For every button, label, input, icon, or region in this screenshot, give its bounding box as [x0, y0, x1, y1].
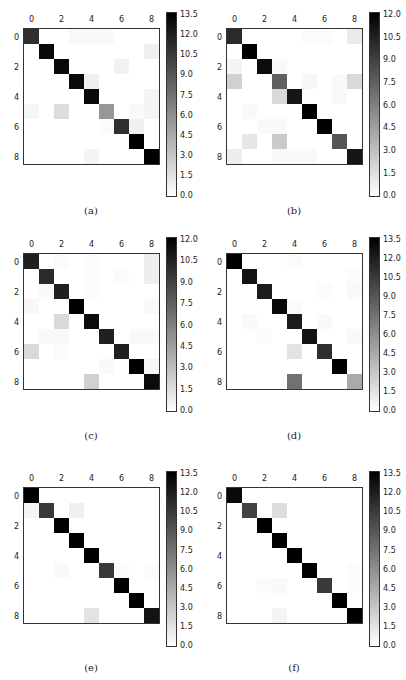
heatmap-cell	[69, 149, 84, 164]
heatmap-cell	[99, 74, 114, 89]
heatmap-cell	[144, 518, 159, 533]
heatmap-cell	[347, 119, 362, 134]
heatmap-cell	[347, 29, 362, 44]
heatmap-cell	[54, 254, 69, 269]
heatmap-cell	[24, 299, 39, 314]
heatmap-matrix	[226, 253, 363, 390]
heatmap-cell	[257, 578, 272, 593]
heatmap-cell	[257, 344, 272, 359]
heatmap-cell	[242, 299, 257, 314]
x-tick-label: 8	[149, 15, 154, 24]
heatmap-cell	[54, 344, 69, 359]
x-tick-label: 0	[29, 240, 34, 249]
heatmap-cell	[332, 374, 347, 389]
heatmap-cell	[347, 374, 362, 389]
heatmap-cell	[287, 104, 302, 119]
colorbar-tick-label: 6.0	[180, 110, 193, 119]
heatmap-cell	[227, 563, 242, 578]
heatmap-cell	[39, 44, 54, 59]
colorbar-tick-label: 3.0	[383, 145, 396, 154]
heatmap-cell	[39, 59, 54, 74]
heatmap-cell	[257, 359, 272, 374]
heatmap-cell	[99, 563, 114, 578]
heatmap-cell	[272, 488, 287, 503]
heatmap-cell	[84, 563, 99, 578]
heatmap-cell	[272, 74, 287, 89]
heatmap-cell	[242, 44, 257, 59]
heatmap-cell	[24, 359, 39, 374]
heatmap-cell	[114, 359, 129, 374]
heatmap-cell	[302, 134, 317, 149]
heatmap-cell	[317, 329, 332, 344]
colorbar-tick-label: 9.0	[383, 292, 396, 301]
heatmap-cell	[272, 299, 287, 314]
heatmap-cell	[317, 89, 332, 104]
heatmap-cell	[227, 59, 242, 74]
heatmap-cell	[114, 518, 129, 533]
heatmap-cell	[99, 149, 114, 164]
colorbar-tick-label: 6.0	[383, 330, 396, 339]
heatmap-cell	[317, 488, 332, 503]
heatmap-cell	[347, 578, 362, 593]
heatmap-cell	[114, 374, 129, 389]
colorbar-tick-label: 1.5	[180, 622, 193, 631]
heatmap-cell	[332, 254, 347, 269]
heatmap-cell	[257, 518, 272, 533]
heatmap-cell	[144, 134, 159, 149]
heatmap-cell	[114, 329, 129, 344]
heatmap-cell	[272, 254, 287, 269]
heatmap-cell	[272, 269, 287, 284]
heatmap-cell	[84, 518, 99, 533]
heatmap-cell	[332, 149, 347, 164]
heatmap-cell	[287, 44, 302, 59]
heatmap-cell	[302, 533, 317, 548]
heatmap-cell	[227, 89, 242, 104]
heatmap-cell	[99, 44, 114, 59]
heatmap-cell	[242, 314, 257, 329]
heatmap-cell	[272, 359, 287, 374]
heatmap-cell	[317, 548, 332, 563]
heatmap-cell	[24, 74, 39, 89]
heatmap-cell	[287, 548, 302, 563]
heatmap-cell	[287, 374, 302, 389]
heatmap-cell	[24, 59, 39, 74]
heatmap-cell	[54, 299, 69, 314]
heatmap-cell	[287, 89, 302, 104]
heatmap-cell	[332, 299, 347, 314]
x-tick-label: 6	[119, 474, 124, 483]
heatmap-cell	[69, 29, 84, 44]
y-tick-label: 4	[9, 551, 19, 560]
heatmap-cell	[99, 608, 114, 623]
heatmap-cell	[129, 299, 144, 314]
colorbar-tick-label: 10.5	[180, 50, 198, 59]
heatmap-cell	[129, 608, 144, 623]
x-tick-label: 4	[292, 474, 297, 483]
heatmap-cell	[317, 344, 332, 359]
colorbar-tick-label: 10.5	[180, 507, 198, 516]
heatmap-cell	[84, 104, 99, 119]
heatmap-cell	[129, 89, 144, 104]
y-tick-label: 2	[9, 62, 19, 71]
heatmap-cell	[114, 593, 129, 608]
heatmap-cell	[302, 104, 317, 119]
heatmap-cell	[69, 314, 84, 329]
heatmap-cell	[114, 119, 129, 134]
colorbar	[369, 12, 380, 197]
colorbar-tick-label: 6.0	[383, 100, 396, 109]
colorbar-tick-label: 7.5	[180, 545, 193, 554]
heatmap-cell	[39, 29, 54, 44]
colorbar	[166, 237, 177, 412]
heatmap-cell	[24, 254, 39, 269]
heatmap-cell	[227, 149, 242, 164]
heatmap-cell	[287, 578, 302, 593]
heatmap-cell	[287, 533, 302, 548]
heatmap-cell	[129, 284, 144, 299]
heatmap-cell	[54, 488, 69, 503]
heatmap-cell	[272, 104, 287, 119]
heatmap-cell	[84, 578, 99, 593]
x-tick-label: 2	[262, 474, 267, 483]
heatmap-cell	[347, 299, 362, 314]
heatmap-cell	[242, 488, 257, 503]
heatmap-cell	[227, 593, 242, 608]
heatmap-cell	[99, 119, 114, 134]
